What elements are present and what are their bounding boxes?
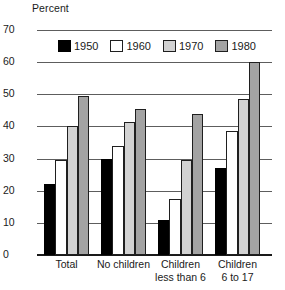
y-axis-tick-70: 70 bbox=[3, 23, 33, 35]
legend-swatch-1970 bbox=[163, 40, 176, 52]
legend-item-1950: 1950 bbox=[58, 40, 98, 52]
y-axis-tick-50: 50 bbox=[3, 87, 33, 99]
bar-1970-2 bbox=[181, 160, 192, 255]
plot-area: 010203040506070 bbox=[37, 30, 272, 255]
legend-swatch-1950 bbox=[58, 40, 71, 52]
bar-1950-2 bbox=[158, 220, 169, 255]
bar-1980-1 bbox=[135, 109, 146, 255]
bar-1970-3 bbox=[238, 99, 249, 255]
bar-1980-2 bbox=[192, 114, 203, 255]
y-axis-tick-20: 20 bbox=[3, 184, 33, 196]
bar-1960-2 bbox=[169, 199, 180, 255]
x-axis-labels: TotalNo childrenChildrenless than 6Child… bbox=[37, 258, 277, 290]
legend-label-1980: 1980 bbox=[231, 40, 255, 52]
y-axis-title: Percent bbox=[32, 2, 69, 14]
bar-1950-1 bbox=[101, 159, 112, 255]
bar-1960-3 bbox=[226, 131, 237, 255]
x-axis-label-line1-3: Children bbox=[203, 258, 272, 271]
bar-group-0 bbox=[44, 30, 89, 255]
y-axis-tick-60: 60 bbox=[3, 55, 33, 67]
x-axis-label-line2-3: 6 to 17 bbox=[203, 271, 272, 284]
bar-1980-0 bbox=[78, 96, 89, 255]
legend-swatch-1980 bbox=[215, 40, 228, 52]
legend-item-1970: 1970 bbox=[163, 40, 203, 52]
bar-1960-0 bbox=[55, 160, 66, 255]
x-axis-label-3: Children6 to 17 bbox=[203, 258, 272, 283]
legend-label-1960: 1960 bbox=[126, 40, 150, 52]
bar-group-3 bbox=[215, 30, 260, 255]
legend-label-1970: 1970 bbox=[179, 40, 203, 52]
bar-1970-0 bbox=[67, 126, 78, 255]
bar-group-2 bbox=[158, 30, 203, 255]
y-axis-tick-0: 0 bbox=[3, 248, 33, 260]
y-axis-tick-10: 10 bbox=[3, 216, 33, 228]
y-axis-tick-40: 40 bbox=[3, 119, 33, 131]
chart-legend: 1950196019701980 bbox=[58, 40, 268, 52]
y-axis-tick-30: 30 bbox=[3, 152, 33, 164]
bar-1980-3 bbox=[249, 62, 260, 255]
bar-1970-1 bbox=[124, 122, 135, 255]
bar-group-1 bbox=[101, 30, 146, 255]
bar-chart: Percent 010203040506070 1950196019701980… bbox=[0, 0, 285, 290]
legend-label-1950: 1950 bbox=[74, 40, 98, 52]
legend-item-1960: 1960 bbox=[110, 40, 150, 52]
legend-item-1980: 1980 bbox=[215, 40, 255, 52]
bar-1950-3 bbox=[215, 168, 226, 255]
legend-swatch-1960 bbox=[110, 40, 123, 52]
bar-1950-0 bbox=[44, 184, 55, 255]
bar-1960-1 bbox=[112, 146, 123, 255]
